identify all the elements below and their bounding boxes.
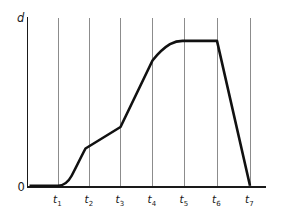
- gridlines-group: [58, 18, 250, 187]
- chart-plot-area: d 0 t1 t2 t3 t4 t5 t6 t7: [0, 0, 287, 215]
- x-tick-sub-t1: 1: [57, 200, 61, 208]
- x-tick-label-t2: t2: [85, 193, 94, 208]
- x-tick-sub-t7: 7: [249, 200, 253, 208]
- x-tick-label-t5: t5: [180, 193, 189, 208]
- origin-label: 0: [18, 180, 25, 194]
- chart-figure: d 0 t1 t2 t3 t4 t5 t6 t7: [0, 0, 287, 215]
- x-tick-label-t7: t7: [245, 193, 254, 208]
- x-tick-sub-t6: 6: [216, 200, 221, 208]
- x-tick-sub-t5: 5: [184, 200, 188, 208]
- x-tick-sub-t2: 2: [89, 200, 93, 208]
- x-tick-label-t4: t4: [148, 193, 157, 208]
- x-tick-sub-t4: 4: [152, 200, 157, 208]
- x-tick-label-t1: t1: [53, 193, 62, 208]
- x-tick-labels-group: t1 t2 t3 t4 t5 t6 t7: [53, 193, 254, 208]
- x-tick-label-t3: t3: [116, 193, 125, 208]
- y-axis-label: d: [17, 11, 25, 25]
- x-tick-label-t6: t6: [212, 193, 221, 208]
- x-tick-sub-t3: 3: [120, 200, 124, 208]
